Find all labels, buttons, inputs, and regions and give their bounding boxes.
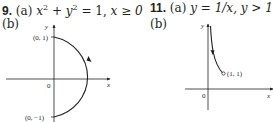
graph-11-x-label: x bbox=[266, 92, 271, 100]
graph-11-hyperbola-curve bbox=[211, 26, 223, 73]
graph-9-point-bottom: (0, −1) bbox=[25, 114, 45, 122]
graph-9-semicircle-curve bbox=[54, 37, 88, 117]
graph-11: y x 0 (1, 1) bbox=[185, 22, 273, 110]
graph-11-point-end: (1, 1) bbox=[227, 70, 243, 78]
graph-11-origin-label: 0 bbox=[202, 92, 206, 100]
graph-9-y-label: y bbox=[44, 23, 49, 31]
graph-9-direction-arrow-icon bbox=[87, 56, 92, 62]
graph-9-point-top: (0, 1) bbox=[33, 34, 49, 42]
graphs-canvas: y x 0 (0, 1) (0, −1) y x 0 (1, 1) bbox=[0, 0, 273, 122]
graph-11-open-endpoint-icon bbox=[222, 72, 225, 75]
graph-11-y-label: y bbox=[200, 22, 205, 30]
graph-9-origin-label: 0 bbox=[47, 82, 51, 90]
graph-9: y x 0 (0, 1) (0, −1) bbox=[6, 23, 111, 122]
graph-9-x-label: x bbox=[106, 81, 111, 89]
